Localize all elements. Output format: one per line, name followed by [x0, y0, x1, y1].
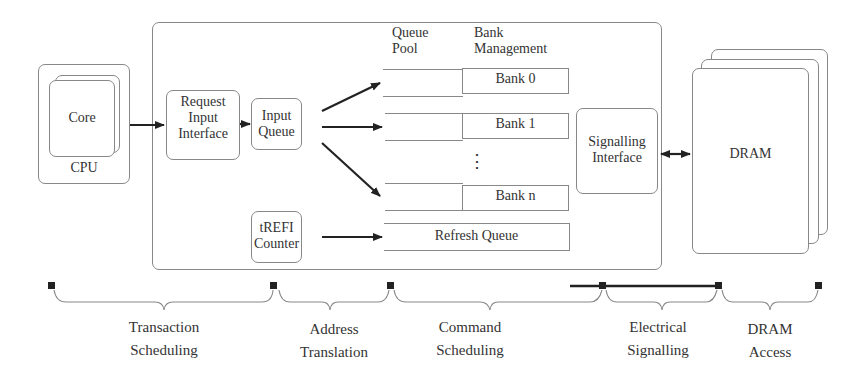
timeline-marker-5 [815, 282, 822, 289]
timeline-marker-1 [270, 282, 277, 289]
timeline-marker-2 [387, 282, 394, 289]
timeline-marker-3 [599, 282, 606, 289]
stage-electrical-signalling: Electrical Signalling [608, 316, 708, 362]
brace-dram-access [722, 290, 818, 310]
arrow-input-queue-to-bank0 [322, 83, 380, 111]
brace-electrical-signalling [606, 290, 717, 310]
stage-address-translation: Address Translation [284, 318, 384, 364]
timeline-marker-0 [48, 282, 55, 289]
timeline-marker-4 [715, 282, 722, 289]
brace-transaction-scheduling [54, 290, 273, 310]
stage-command-scheduling: Command Scheduling [420, 316, 520, 362]
brace-address-translation [279, 290, 389, 310]
stage-transaction-scheduling: Transaction Scheduling [114, 316, 214, 362]
brace-command-scheduling [394, 290, 602, 310]
stage-dram-access: DRAM Access [720, 318, 820, 364]
arrow-input-queue-to-bankn [322, 143, 380, 196]
